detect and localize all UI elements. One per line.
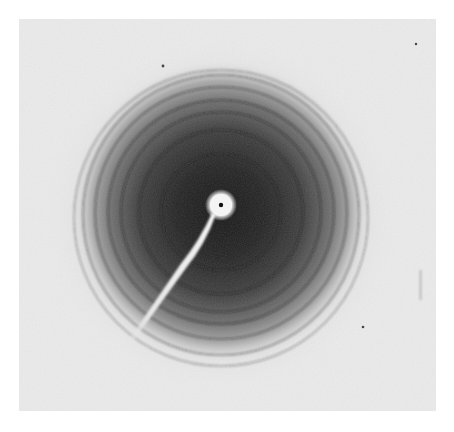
dust-speck: [162, 65, 165, 68]
beam-center-dot: [219, 203, 223, 207]
dust-speck: [362, 326, 365, 329]
film-smudge: [419, 270, 422, 300]
dust-speck: [415, 43, 417, 45]
diffraction-image: [0, 0, 454, 432]
diffraction-pattern-svg: [0, 0, 454, 432]
